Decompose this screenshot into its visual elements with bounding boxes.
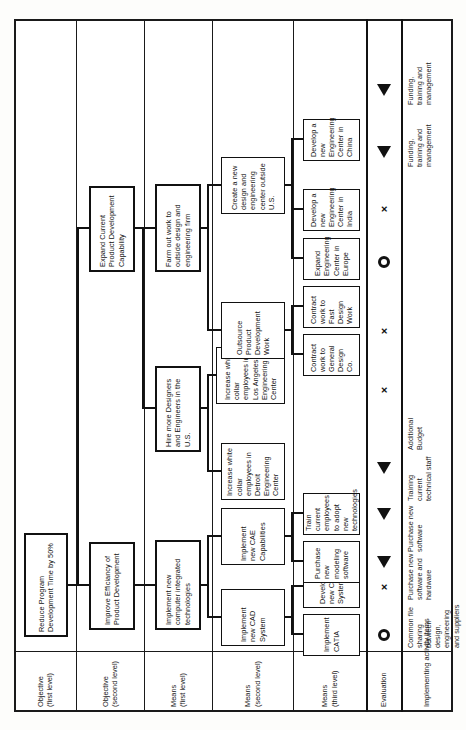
node-means-2f[interactable]: Create a new design and engineering cent… <box>221 157 285 214</box>
node-means-2c[interactable]: Increase white collar employees in Detro… <box>221 443 285 500</box>
node-label: Implement CATIA <box>322 618 340 652</box>
node-means-3h[interactable]: Develop a new Engineering Center in Indi… <box>303 189 360 231</box>
node-label: Farm out work to outside design and engi… <box>164 189 192 267</box>
header-line2: (second level) <box>110 652 119 707</box>
connector-o1-bus <box>77 228 79 586</box>
connector-m2b-bus <box>291 513 293 562</box>
node-objective-2b[interactable]: Expand Current Product Development Capab… <box>89 186 135 272</box>
node-means-1c[interactable]: Farm out work to outside design and engi… <box>155 184 201 272</box>
activity-item-1: Purchase new software and hardware <box>406 552 450 600</box>
header-line1: Objective <box>100 652 109 707</box>
node-objective-2a[interactable]: Improve Efficiancy of Product Developmen… <box>89 542 135 630</box>
evaluation-mark-10 <box>373 79 395 101</box>
node-means-3e[interactable]: Contract work to General Design Co. <box>303 334 360 376</box>
node-label: Increase white collar employees in Detro… <box>225 447 280 496</box>
node-means-2b[interactable]: Implement new CAE Capabilities <box>221 508 285 565</box>
header-line2: (third level) <box>329 652 338 707</box>
connector-m2b-drop <box>207 535 221 537</box>
activity-text: Purchase new software and hardware <box>406 553 433 599</box>
header-line2: (first level) <box>178 652 187 707</box>
header-implementing-activity-items: Implementing activity items <box>401 652 453 712</box>
connector-m2f-drop <box>207 184 221 186</box>
header-objective-second-level: Objective (second level) <box>76 652 144 712</box>
cross-icon: × <box>378 386 389 392</box>
evaluation-mark-0 <box>373 624 395 646</box>
node-means-1a[interactable]: Implement new computer integrated techno… <box>155 540 201 630</box>
header-line1: Evaluation <box>378 652 387 707</box>
node-means-2a[interactable]: Implement new CAD System <box>221 589 285 646</box>
connector-m2e-drop <box>207 329 221 331</box>
connector-m2f-bus <box>291 139 293 259</box>
node-means-3f[interactable]: Contract work to Fast Design Work <box>303 286 360 328</box>
connector-o1-stem <box>68 584 78 586</box>
connector-o2a-drop <box>77 584 89 586</box>
triangle-icon <box>377 84 391 96</box>
header-line2: (first level) <box>45 652 54 707</box>
connector-m1c-bus <box>207 185 209 331</box>
evaluation-mark-6: × <box>373 320 395 342</box>
evaluation-mark-9 <box>373 141 395 163</box>
node-label: Create a new design and engineering cent… <box>230 161 276 210</box>
header-line1: Implementing activity items <box>422 652 431 707</box>
connector-m3i-drop <box>291 138 303 140</box>
node-means-1b[interactable]: Hire more Designers and Engineers in the… <box>155 366 201 452</box>
node-means-3d[interactable]: Train current employees to adopt new tec… <box>303 493 360 535</box>
header-line1: Means <box>320 652 329 707</box>
activity-item-3: Training current technical staff <box>406 453 450 501</box>
activity-item-10: Funding, training and management <box>406 57 450 105</box>
node-label: Expand Current Product Development Capab… <box>98 191 126 267</box>
header-evaluation: Evaluation <box>366 652 401 712</box>
connector-m1b-drop <box>142 407 155 409</box>
node-label: Purchase new modeling software <box>313 545 350 579</box>
circle-icon <box>378 256 390 268</box>
node-means-3g[interactable]: Expand Engineering Center in Europe <box>303 238 360 280</box>
node-label: Train current employees to adopt new tec… <box>303 497 358 531</box>
cross-icon: × <box>378 583 389 589</box>
node-means-3c[interactable]: Purchase new modeling software <box>303 541 360 583</box>
activity-text: Funding, training and management <box>406 62 433 105</box>
activity-text: Common file sharing between design, engi… <box>406 604 461 647</box>
triangle-icon <box>377 462 391 474</box>
node-label: Outsource Product Development Work <box>234 306 271 355</box>
node-label: Implement new CAD System <box>239 593 267 642</box>
cross-icon: × <box>378 327 389 333</box>
evaluation-mark-3 <box>373 503 395 525</box>
node-label: Expand Engineering Center in Europe <box>313 242 350 276</box>
activity-item-9: Funding, training and management <box>406 119 450 167</box>
node-means-3i[interactable]: Develop a new Engineering Center in Chin… <box>303 119 360 161</box>
header-line1: Means <box>168 652 177 707</box>
activity-text: Training current technical staff <box>406 456 433 500</box>
evaluation-mark-2 <box>373 551 395 573</box>
node-means-2e[interactable]: Outsource Product Development Work <box>221 302 285 359</box>
header-means-third-level: Means (third level) <box>293 652 366 712</box>
node-label: Reduce Program Development Time by 50% <box>36 538 54 632</box>
connector-m2c-drop <box>207 470 221 472</box>
node-means-3a[interactable]: Implement CATIA <box>303 614 360 656</box>
connector-o2b-bus <box>142 228 144 409</box>
node-label: Implement new computer integrated techno… <box>164 545 192 625</box>
connector-m3h-drop <box>291 208 303 210</box>
diagram-canvas: Objective (first level) Objective (secon… <box>0 0 466 730</box>
connector-m1c-drop <box>142 227 155 229</box>
header-line2: (second level) <box>252 652 261 707</box>
evaluation-mark-5: × <box>373 379 395 401</box>
evaluation-mark-8: × <box>373 198 395 220</box>
connector-m3b-drop <box>291 585 303 587</box>
node-label: Contract work to Fast Design Work <box>308 290 354 324</box>
band-separator-means3 <box>366 19 368 712</box>
connector-m2a-bus <box>291 586 293 635</box>
cross-icon: × <box>378 205 389 211</box>
connector-m1b-bus <box>207 375 209 472</box>
header-objective-first-level: Objective (first level) <box>14 652 76 712</box>
band-separator-objective2 <box>144 19 145 712</box>
triangle-icon <box>377 508 391 520</box>
header-means-second-level: Means (second level) <box>212 652 293 712</box>
activity-text: Funding, training and management <box>406 124 433 167</box>
connector-m2e-bus <box>291 306 293 355</box>
band-separator-means2 <box>293 19 294 712</box>
connector-m3e-drop <box>291 353 303 355</box>
node-objective-1[interactable]: Reduce Program Development Time by 50% <box>24 533 68 637</box>
node-label: Contract work to General Design Co. <box>308 338 354 372</box>
activity-item-0: Common file sharing between design, engi… <box>406 600 450 648</box>
triangle-icon <box>377 556 391 568</box>
